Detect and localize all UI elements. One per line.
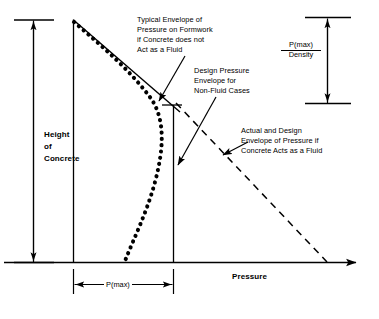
annotation-typical-envelope-line4: Act as a Fluid [137, 45, 182, 54]
height-of-concrete-label-line2: of [44, 142, 52, 152]
annotation-typical-envelope: Typical Envelope of [137, 15, 202, 24]
annotation-typical-envelope-line3: if Concrete does not [137, 35, 204, 44]
annotation-typical-envelope-line2: Pressure on Formwork [137, 25, 213, 34]
annotation-fluid-envelope-line3: Concrete Acts as a Fluid [241, 146, 322, 155]
pmax-horizontal-label: P(max) [104, 280, 132, 289]
pressure-envelope-diagram: Typical Envelope of Pressure on Formwork… [0, 0, 379, 319]
annotation-fluid-envelope: Actual and Design [241, 126, 302, 135]
annotation-fluid-envelope-line2: Envelope of Pressure if [241, 136, 319, 145]
pmax-over-density-dimension [305, 18, 351, 104]
design-pressure-cutoff-line [162, 105, 182, 262]
annotation-design-pressure-envelope: Design Pressure [194, 66, 249, 75]
pressure-axis-label: Pressure [232, 272, 267, 282]
density-denominator: Density [281, 51, 321, 60]
annotation-design-pressure-envelope-line3: Non-Fluid Cases [194, 86, 250, 95]
height-of-concrete-label-line3: Concrete [44, 154, 79, 164]
height-of-concrete-label-line1: Height [44, 130, 70, 140]
design-pressure-envelope-leader [178, 97, 216, 165]
pmax-over-density-label: P(max) Density [281, 41, 321, 60]
typical-envelope-leader [159, 56, 185, 101]
annotation-design-pressure-envelope-line2: Envelope for [194, 76, 236, 85]
